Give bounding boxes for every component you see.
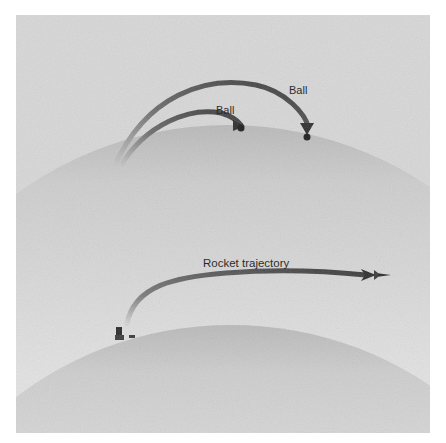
film-grain	[16, 15, 430, 433]
diagram-canvas: Ball Ball Rocket trajectory	[16, 15, 430, 433]
figure-frame: Ball Ball Rocket trajectory	[16, 15, 430, 433]
